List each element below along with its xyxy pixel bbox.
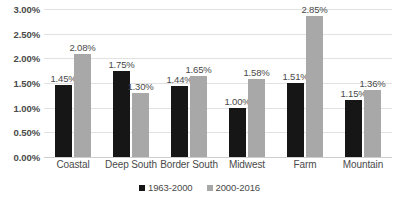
x-axis-category-label: Deep South	[105, 159, 157, 170]
x-axis-category-label: Coastal	[56, 159, 89, 170]
bar-value-label: 2.08%	[70, 42, 96, 53]
bar-mountain-2000-2016[interactable]	[364, 90, 381, 157]
bar-value-label: 1.45%	[51, 73, 77, 84]
y-axis: 0.00%0.50%1.00%1.50%2.00%2.50%3.00%	[0, 9, 40, 157]
bar-mountain-1963-2000[interactable]	[345, 100, 362, 157]
bar-coastal-2000-2016[interactable]	[74, 54, 91, 157]
legend-swatch-icon	[207, 185, 213, 191]
bar-value-label: 1.75%	[109, 59, 135, 70]
bar-value-label: 1.36%	[360, 78, 386, 89]
y-axis-tick-label: 2.00%	[0, 53, 40, 64]
bar-chart: 0.00%0.50%1.00%1.50%2.00%2.50%3.00% 1.45…	[0, 0, 399, 218]
bar-coastal-1963-2000[interactable]	[55, 85, 72, 157]
bar-value-label: 1.65%	[186, 64, 212, 75]
legend: 1963-20002000-2016	[0, 182, 399, 193]
y-axis-tick-label: 0.50%	[0, 127, 40, 138]
y-axis-tick-label: 3.00%	[0, 4, 40, 15]
legend-item-2000-2016[interactable]: 2000-2016	[207, 182, 261, 193]
x-axis-category-label: Farm	[294, 159, 317, 170]
legend-label: 2000-2016	[216, 182, 261, 193]
x-axis-category-label: Midwest	[229, 159, 265, 170]
legend-item-1963-2000[interactable]: 1963-2000	[139, 182, 193, 193]
bar-value-label: 1.00%	[225, 96, 251, 107]
bars-layer: 1.45%2.08%1.75%1.30%1.44%1.65%1.00%1.58%…	[44, 9, 392, 157]
bar-midwest-1963-2000[interactable]	[229, 108, 246, 157]
bar-value-label: 1.15%	[341, 88, 367, 99]
bar-value-label: 2.85%	[302, 4, 328, 15]
bar-farm-1963-2000[interactable]	[287, 83, 304, 157]
bar-value-label: 1.44%	[167, 74, 193, 85]
bar-border-south-2000-2016[interactable]	[190, 76, 207, 157]
bar-farm-2000-2016[interactable]	[306, 16, 323, 157]
bar-value-label: 1.51%	[283, 71, 309, 82]
x-axis-category-label: Mountain	[343, 159, 383, 170]
bar-border-south-1963-2000[interactable]	[171, 86, 188, 157]
bar-deep-south-2000-2016[interactable]	[132, 93, 149, 157]
y-axis-tick-label: 0.00%	[0, 152, 40, 163]
bar-value-label: 1.58%	[244, 67, 270, 78]
x-axis-category-label: Border South	[160, 159, 218, 170]
y-axis-tick-label: 2.50%	[0, 28, 40, 39]
bar-midwest-2000-2016[interactable]	[248, 79, 265, 157]
gridline	[44, 157, 392, 158]
bar-value-label: 1.30%	[128, 81, 154, 92]
y-axis-tick-label: 1.50%	[0, 78, 40, 89]
x-axis: CoastalDeep SouthBorder SouthMidwestFarm…	[44, 159, 392, 175]
legend-label: 1963-2000	[148, 182, 193, 193]
legend-swatch-icon	[139, 185, 145, 191]
y-axis-tick-label: 1.00%	[0, 102, 40, 113]
